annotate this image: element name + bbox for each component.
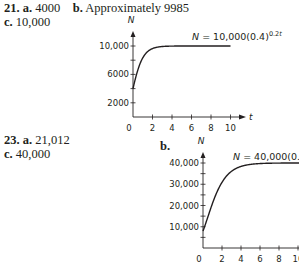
y-tick-label: 2000 xyxy=(107,98,129,108)
x-axis-label: t xyxy=(249,112,253,122)
y-tick-label: 6000 xyxy=(107,69,129,79)
x-tick-label: 0 xyxy=(126,123,131,133)
y-axis-label: N xyxy=(128,15,135,25)
x-tick-label: 2 xyxy=(150,123,155,133)
x-axis-arrow-icon xyxy=(239,115,246,120)
series-line xyxy=(203,163,299,231)
x-tick-label: 0 xyxy=(196,254,201,264)
y-axis-arrow-icon xyxy=(201,152,206,158)
series-line xyxy=(133,46,231,89)
x-tick-label: 6 xyxy=(189,123,194,133)
x-tick-label: 8 xyxy=(208,123,213,133)
y-tick-label: 10,000 xyxy=(99,41,129,51)
x-tick-label: 8 xyxy=(276,254,281,264)
x-tick-label: 10 xyxy=(225,123,236,133)
charts-canvas: 2000600010,0000246810NtN = 10,000(0.4)0.… xyxy=(0,0,299,273)
chart-1: 2000600010,0000246810NtN = 10,000(0.4)0.… xyxy=(99,15,282,133)
x-tick-label: 4 xyxy=(238,254,243,264)
x-tick-label: 2 xyxy=(219,254,224,264)
chart-2: 10,00020,00030,00040,0000246810NN = 40,0… xyxy=(169,136,299,264)
x-tick-label: 10 xyxy=(293,254,299,264)
y-tick-label: 30,000 xyxy=(169,179,199,189)
x-tick-label: 6 xyxy=(257,254,262,264)
y-tick-label: 10,000 xyxy=(169,222,199,232)
y-tick-label: 20,000 xyxy=(169,201,199,211)
equation-label: N = 10,000(0.4)0.2t xyxy=(192,30,282,42)
equation-label: N = 40,000(0.2)0.4t xyxy=(233,150,299,162)
y-axis-label: N xyxy=(198,136,205,146)
y-tick-label: 40,000 xyxy=(169,158,199,168)
x-tick-label: 4 xyxy=(169,123,174,133)
y-axis-arrow-icon xyxy=(131,31,136,37)
